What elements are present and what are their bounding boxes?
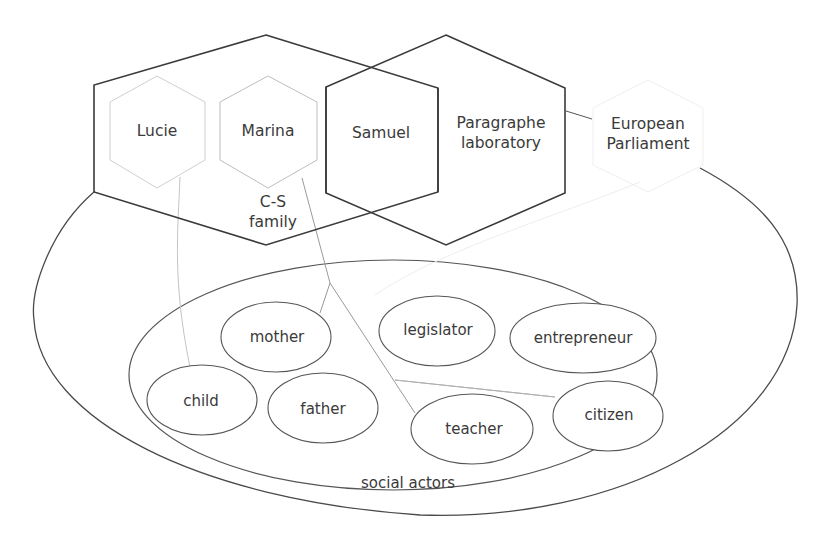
lucie-label: Lucie (137, 121, 178, 141)
paragraphe-label: Paragraphe laboratory (457, 113, 546, 153)
european-parliament-label-line2: Parliament (606, 134, 689, 154)
role-mother-label: mother (250, 327, 305, 347)
role-legislator-label: legislator (403, 320, 473, 340)
paragraphe-label-line2: laboratory (457, 133, 546, 153)
cs-family-label-line2: family (249, 212, 297, 232)
european-parliament-label: European Parliament (606, 114, 689, 154)
cs-family-label-line1: C-S (249, 192, 297, 212)
samuel-label: Samuel (352, 123, 410, 143)
connector-lucie-child (177, 177, 190, 367)
paragraphe-label-line1: Paragraphe (457, 113, 546, 133)
role-entrepreneur-label: entrepreneur (534, 328, 633, 348)
european-parliament-label-line1: European (606, 114, 689, 134)
marina-label: Marina (242, 121, 295, 141)
role-father-label: father (300, 399, 345, 419)
social-actors-label: social actors (361, 473, 455, 493)
role-citizen-label: citizen (584, 405, 633, 425)
cs-family-label: C-S family (249, 192, 297, 232)
connector-paragraphe-parliament (566, 111, 592, 119)
connector-marina-mother (320, 283, 330, 313)
role-child-label: child (183, 391, 219, 411)
role-teacher-label: teacher (445, 419, 502, 439)
diagram-canvas (0, 0, 830, 546)
